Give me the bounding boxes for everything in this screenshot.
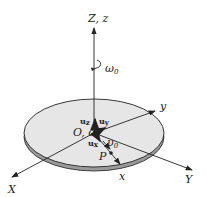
origin-label: O, o [73,126,95,139]
uy-label: uy [99,116,110,127]
Y-axis-label: Y [185,173,194,186]
y-axis-label: y [159,100,167,113]
rotation-arrow-icon [91,60,101,68]
x-axis-label: x [119,170,126,183]
X-axis-label: X [7,183,17,196]
omega-label: ω0 [105,62,119,76]
ux-label: ux [88,138,99,149]
z-axis-label: Z, z [87,12,108,25]
point-P [109,151,113,155]
rotating-disk-diagram: Z, z ω0 X Y y x uz uy ux O, o υ0 P [0,0,207,197]
point-P-label: P [98,150,107,163]
